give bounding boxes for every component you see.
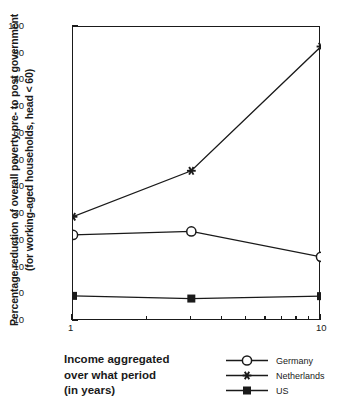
open-circle-marker — [187, 227, 196, 236]
x-axis-title-line-3: (in years) — [64, 383, 214, 399]
filled-square-marker — [243, 387, 251, 395]
filled-square-marker — [187, 295, 195, 303]
y-axis-tick-label: 100 — [0, 21, 24, 31]
x-axis-tick-label: 10 — [316, 323, 327, 333]
x-axis-title: Income aggregated over what period (in y… — [64, 352, 214, 399]
open-circle-marker — [316, 252, 321, 261]
series-line-us — [73, 296, 321, 299]
x-axis-tick-mark — [71, 314, 72, 320]
x-axis-minor-tick-mark — [295, 316, 296, 320]
y-axis-tick-label: 70 — [0, 101, 24, 111]
y-axis-tick-label: 20 — [0, 235, 24, 245]
x-axis-minor-tick-mark — [190, 316, 191, 320]
asterisk-marker — [73, 213, 77, 221]
y-axis-tick-label: 0 — [0, 288, 24, 298]
legend-marker-filled-square — [224, 383, 270, 398]
legend-marker-open-circle — [224, 353, 270, 368]
x-axis-minor-tick-mark — [281, 316, 282, 320]
y-axis-tick-label: 50 — [0, 155, 24, 165]
x-axis-tick-label: 1 — [68, 323, 73, 333]
legend-item: Netherlands — [224, 368, 354, 383]
chart-root: Percentage reduction of overall poverty … — [0, 0, 356, 413]
x-axis-tick-mark — [319, 314, 320, 320]
asterisk-marker — [243, 372, 252, 380]
x-axis-title-line-1: Income aggregated — [64, 352, 214, 368]
legend-label: Netherlands — [270, 371, 325, 381]
y-axis-tick-label: 60 — [0, 128, 24, 138]
y-axis-tick-label: 30 — [0, 208, 24, 218]
chart-legend: GermanyNetherlandsUS — [224, 353, 354, 398]
filled-square-marker — [317, 292, 321, 300]
filled-square-marker — [73, 292, 77, 300]
plot-area — [72, 26, 320, 320]
x-axis-minor-tick-mark — [221, 316, 222, 320]
y-axis-tick-label: -10 — [0, 315, 24, 325]
y-axis-tick-label: 80 — [0, 74, 24, 84]
y-axis-tick-label: 40 — [0, 181, 24, 191]
legend-marker-asterisk — [224, 368, 270, 383]
x-axis-minor-tick-mark — [308, 316, 309, 320]
legend-item: US — [224, 383, 354, 398]
x-axis-title-line-2: over what period — [64, 368, 214, 384]
y-axis-title-line-2: (for working-aged households, head < 60) — [22, 14, 37, 326]
y-axis-tick-label: 90 — [0, 48, 24, 58]
y-axis-title-line-1: Percentage reduction of overall poverty … — [7, 14, 22, 326]
asterisk-marker — [317, 43, 321, 51]
series-line-netherlands — [73, 47, 321, 217]
y-axis-tick-label: 10 — [0, 262, 24, 272]
legend-item: Germany — [224, 353, 354, 368]
series-line-germany — [73, 231, 321, 256]
open-circle-marker — [73, 230, 78, 239]
legend-label: US — [270, 386, 289, 396]
x-axis-minor-tick-mark — [264, 316, 265, 320]
legend-label: Germany — [270, 356, 313, 366]
data-series-canvas — [73, 27, 321, 321]
x-axis-minor-tick-mark — [146, 316, 147, 320]
x-axis-minor-tick-mark — [245, 316, 246, 320]
open-circle-marker — [242, 356, 251, 365]
